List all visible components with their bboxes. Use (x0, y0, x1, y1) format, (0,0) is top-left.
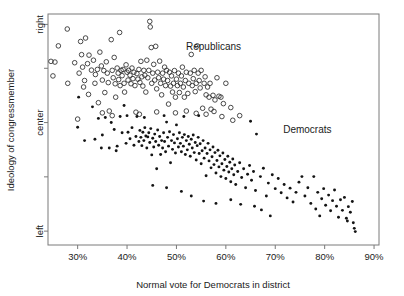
data-point (353, 227, 356, 230)
data-point (93, 138, 96, 141)
data-point (339, 198, 342, 201)
data-point (158, 81, 163, 86)
data-point (255, 133, 258, 136)
data-point (216, 159, 219, 162)
data-point (202, 139, 205, 142)
data-point (149, 127, 152, 130)
data-point (316, 191, 319, 194)
data-point (177, 146, 180, 149)
data-point (155, 70, 160, 75)
data-point (65, 81, 70, 86)
data-point (201, 149, 204, 152)
data-point (309, 202, 312, 205)
data-point (213, 163, 216, 166)
data-point (246, 173, 249, 176)
data-point (169, 74, 174, 79)
data-point (137, 67, 142, 72)
data-point (220, 114, 225, 119)
data-point (141, 84, 146, 89)
data-point (160, 139, 163, 142)
data-point (162, 131, 165, 134)
data-point (236, 170, 239, 173)
data-point (154, 87, 159, 92)
data-point (148, 25, 153, 30)
data-point (300, 175, 303, 178)
data-point (91, 105, 94, 108)
data-point (119, 115, 122, 118)
data-point (188, 143, 191, 146)
data-point (260, 208, 263, 211)
data-point (206, 152, 209, 155)
data-point (234, 183, 237, 186)
data-point (331, 199, 334, 202)
data-point (65, 27, 70, 32)
data-point (224, 177, 227, 180)
data-point (199, 68, 204, 73)
data-point (166, 102, 171, 107)
data-point (145, 75, 150, 80)
data-point (173, 95, 178, 100)
data-point (103, 90, 108, 95)
data-point (83, 36, 88, 41)
data-point (220, 162, 223, 165)
y-tick-label: left (34, 224, 45, 237)
data-point (96, 100, 101, 105)
data-point (170, 139, 173, 142)
data-point (105, 71, 110, 76)
data-point (159, 93, 164, 98)
data-point (200, 106, 205, 111)
data-point (165, 121, 168, 124)
data-point (215, 202, 218, 205)
republicans-point-group (49, 19, 242, 122)
data-point (204, 112, 209, 117)
data-point (145, 58, 150, 63)
data-point (191, 147, 194, 150)
y-axis-ticks: leftcenterright (34, 15, 48, 238)
data-point (150, 153, 153, 156)
data-point (72, 60, 77, 65)
data-point (166, 136, 169, 139)
data-point (238, 161, 241, 164)
data-point (135, 115, 138, 118)
data-point (126, 114, 129, 117)
data-point (87, 53, 92, 58)
data-point (183, 133, 186, 136)
data-point (110, 113, 115, 118)
data-point (161, 147, 164, 150)
data-point (156, 75, 161, 80)
x-tick-label: 30% (68, 251, 88, 262)
data-point (289, 187, 292, 190)
data-point (186, 91, 191, 96)
data-point (277, 177, 280, 180)
data-point (145, 147, 148, 150)
data-point (224, 81, 229, 86)
data-point (239, 203, 242, 206)
x-tick-label: 80% (315, 251, 335, 262)
data-point (286, 196, 289, 199)
data-point (108, 147, 111, 150)
data-point (341, 209, 344, 212)
data-point (133, 83, 138, 88)
data-point (210, 166, 213, 169)
data-point (98, 50, 103, 55)
data-point (116, 145, 119, 148)
data-point (153, 44, 158, 49)
data-point (253, 205, 256, 208)
data-point (197, 136, 200, 139)
data-point (217, 149, 220, 152)
data-point (347, 205, 350, 208)
data-point (146, 135, 149, 138)
data-point (100, 78, 105, 83)
data-point (156, 129, 159, 132)
data-point (137, 140, 140, 143)
data-point (182, 95, 187, 100)
data-point (208, 81, 213, 86)
data-point (196, 144, 199, 147)
data-point (169, 161, 172, 164)
data-point (173, 111, 178, 116)
data-point (262, 167, 265, 170)
data-point (232, 173, 235, 176)
data-point (176, 71, 181, 76)
data-point (179, 142, 182, 145)
data-point (109, 37, 114, 42)
